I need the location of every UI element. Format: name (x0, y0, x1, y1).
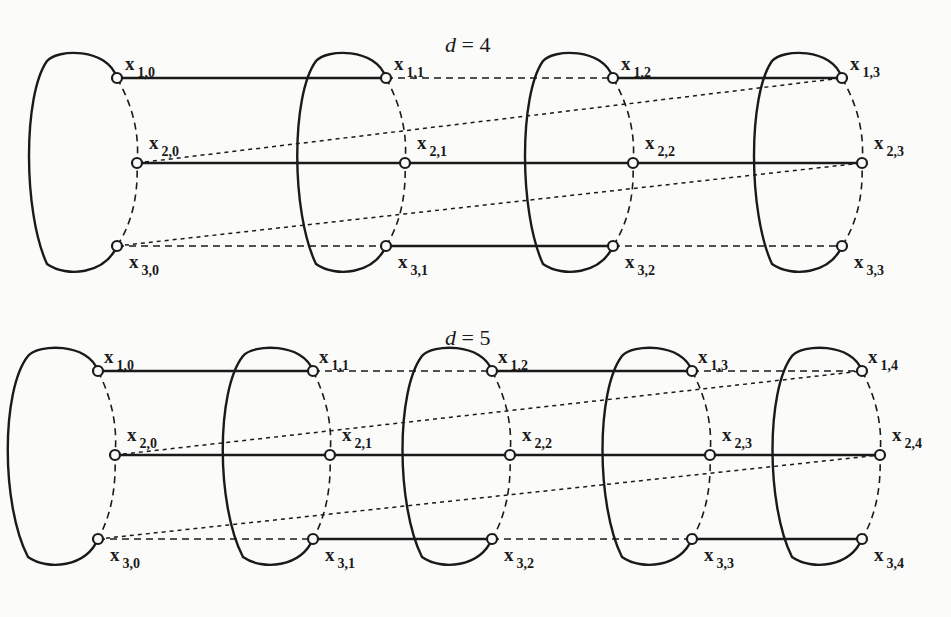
ring-front-arc (603, 348, 693, 565)
vertex-label: x3,0 (129, 251, 159, 278)
vertex-label: x1,4 (868, 346, 898, 373)
label-base: x (854, 251, 864, 272)
label-subscript: 3,3 (867, 263, 885, 278)
vertex-label: x3,3 (704, 544, 734, 571)
vertex (112, 241, 122, 251)
panel-d5: d = 5 x1,0x1,1x1,2x1,3x1,4x2,0x2,1x2,2x2… (8, 325, 922, 571)
label-base: x (498, 346, 508, 367)
vertex (381, 241, 391, 251)
label-base: x (722, 424, 732, 445)
vertex-label: x2,3 (722, 424, 752, 451)
label-subscript: 1,2 (511, 358, 529, 373)
vertex (687, 366, 697, 376)
edge-wrap-dotted (98, 455, 880, 539)
vertex-label: x3,2 (625, 251, 655, 278)
label-base: x (874, 544, 884, 565)
vertex (875, 450, 885, 460)
label-base: x (522, 424, 532, 445)
label-base: x (645, 132, 655, 153)
vertex-label: x3,1 (398, 251, 428, 278)
vertex-label: x1,2 (621, 53, 651, 80)
vertex (132, 158, 142, 168)
ring-front-arc (223, 348, 313, 565)
vertex (381, 73, 391, 83)
label-base: x (625, 251, 635, 272)
ring-front-arc (403, 348, 493, 565)
label-base: x (104, 346, 114, 367)
panel-title-d5: d = 5 (445, 325, 490, 350)
label-base: x (319, 346, 329, 367)
vertex-label: x1,0 (104, 346, 134, 373)
label-subscript: 2,2 (535, 436, 553, 451)
label-base: x (850, 53, 860, 74)
vertex (400, 158, 410, 168)
panel-d4: d = 4 x1,0x1,1x1,2x1,3x2,0x2,1x2,2x2,3x3… (29, 32, 904, 278)
vertex-label: x3,1 (325, 544, 355, 571)
panel-title-d4: d = 4 (445, 32, 490, 57)
label-base: x (129, 251, 139, 272)
ring-front-arc (29, 53, 117, 272)
label-subscript: 3,0 (142, 263, 160, 278)
label-base: x (874, 132, 884, 153)
vertex (487, 366, 497, 376)
label-base: x (698, 346, 708, 367)
label-base: x (868, 346, 878, 367)
label-subscript: 1,3 (711, 358, 729, 373)
label-subscript: 2,0 (162, 144, 180, 159)
vertex (857, 534, 867, 544)
label-subscript: 2,3 (735, 436, 753, 451)
label-subscript: 3,2 (517, 556, 535, 571)
vertex (110, 450, 120, 460)
label-subscript: 2,4 (905, 436, 923, 451)
vertex (687, 534, 697, 544)
vertex (93, 366, 103, 376)
label-base: x (621, 53, 631, 74)
vertex-label: x2,2 (522, 424, 552, 451)
label-base: x (149, 132, 159, 153)
label-subscript: 3,1 (411, 263, 429, 278)
ring-front-arc (8, 348, 98, 565)
vertex (487, 534, 497, 544)
label-subscript: 2,1 (430, 144, 448, 159)
vertex (93, 534, 103, 544)
vertex-label: x1,2 (498, 346, 528, 373)
vertex (837, 73, 847, 83)
vertex-label: x3,4 (874, 544, 904, 571)
label-subscript: 1,0 (138, 65, 156, 80)
vertex-label: x1,0 (125, 53, 155, 80)
vertex-label: x1,3 (698, 346, 728, 373)
label-subscript: 1,1 (407, 65, 425, 80)
vertex (608, 241, 618, 251)
label-subscript: 1,2 (634, 65, 652, 80)
label-subscript: 1,1 (332, 358, 350, 373)
vertex (112, 73, 122, 83)
title-equation: = 4 (456, 32, 490, 57)
label-subscript: 2,2 (658, 144, 676, 159)
label-base: x (127, 424, 137, 445)
vertex-label: x2,0 (149, 132, 179, 159)
vertex-label: x3,0 (110, 544, 140, 571)
vertex (505, 450, 515, 460)
cylinder-graph-figure: d = 4 x1,0x1,1x1,2x1,3x2,0x2,1x2,2x2,3x3… (0, 0, 951, 617)
label-base: x (394, 53, 404, 74)
label-base: x (398, 251, 408, 272)
label-base: x (125, 53, 135, 74)
label-base: x (417, 132, 427, 153)
edge-wrap-dotted (137, 78, 842, 163)
vertex (308, 366, 318, 376)
vertex (308, 534, 318, 544)
vertex (608, 73, 618, 83)
vertex-label: x2,2 (645, 132, 675, 159)
vertex-label: x1,1 (394, 53, 424, 80)
label-subscript: 3,0 (123, 556, 141, 571)
title-equation: = 5 (456, 325, 490, 350)
vertex-label: x1,3 (850, 53, 880, 80)
vertex-label: x3,2 (504, 544, 534, 571)
vertex (857, 366, 867, 376)
label-subscript: 2,1 (355, 436, 373, 451)
vertex (857, 158, 867, 168)
edge-wrap-dotted (117, 163, 862, 246)
vertex-label: x3,3 (854, 251, 884, 278)
vertex (628, 158, 638, 168)
label-subscript: 3,4 (887, 556, 905, 571)
